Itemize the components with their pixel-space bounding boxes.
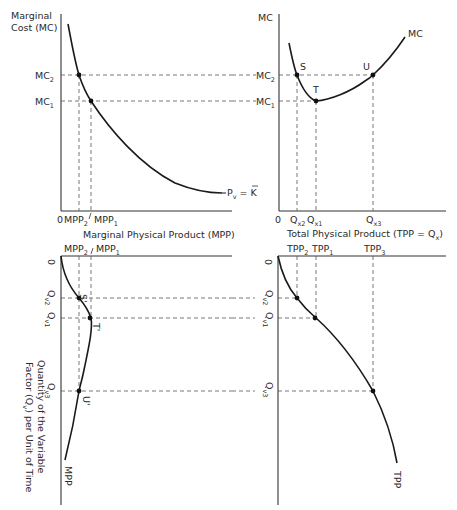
svg-text:Qv1: Qv1 <box>261 312 275 327</box>
bl-label-t: T' <box>91 322 102 331</box>
tr-tick-qx2: Qx2 <box>290 214 305 228</box>
br-tick-qv1: Qv1 <box>261 312 275 327</box>
tr-label-s: S <box>300 61 306 72</box>
br-tick-qv3: Qv3 <box>261 382 275 397</box>
bl-point-u <box>77 389 82 394</box>
svg-text:Qv1: Qv1 <box>43 312 57 327</box>
bl-tick-mpp2: MPP2 <box>64 243 88 257</box>
tr-x-axis-label: Total Physical Product (TPP = Qx) <box>286 228 443 242</box>
svg-text:0: 0 <box>263 259 274 265</box>
br-tick-tpp3: TPP3 <box>363 243 385 257</box>
tl-point-mc1 <box>89 99 94 104</box>
production-cost-diagram: Marginal Cost (MC) MC2 MC1 Pv = K 0 MPP2… <box>0 0 457 510</box>
panel-bottom-left: MPP2 MPP1 0 Qv2 Qv1 Qv3 S' T' U' MPP Qua… <box>21 243 232 505</box>
svg-text:MPP: MPP <box>63 466 74 486</box>
tr-point-u <box>371 73 376 78</box>
tr-mc-curve <box>289 37 405 101</box>
bl-tick-mpp1: MPP1 <box>96 243 120 257</box>
panel-top-left: Marginal Cost (MC) MC2 MC1 Pv = K 0 MPP2… <box>11 10 258 240</box>
svg-text:TPP: TPP <box>392 470 403 489</box>
bl-y-axis-label-2: Factor (Qv) per Unit of Time <box>21 362 35 493</box>
bl-label-s: S' <box>78 294 89 303</box>
tr-tick-mc2: MC2 <box>256 70 275 84</box>
br-tpp-curve <box>278 256 397 463</box>
bl-point-t <box>88 316 93 321</box>
tl-point-mc2 <box>77 73 82 78</box>
tr-y-axis-label: MC <box>258 12 273 23</box>
tr-label-t: T <box>312 84 319 95</box>
svg-text:0: 0 <box>46 259 57 265</box>
svg-text:Quantity of the Variable: Quantity of the Variable <box>36 360 47 473</box>
br-tick-tpp2: TPP2 <box>286 243 308 257</box>
br-point-t <box>313 316 318 321</box>
svg-text:T': T' <box>91 322 102 331</box>
svg-text:Factor (Qv) per Unit of Time: Factor (Qv) per Unit of Time <box>21 362 35 493</box>
tl-tick-mc2: MC2 <box>35 70 54 84</box>
bl-tick-origin: 0 <box>46 259 57 265</box>
br-tick-origin: 0 <box>263 259 274 265</box>
svg-text:S': S' <box>78 294 89 303</box>
bl-mpp-curve <box>61 256 91 460</box>
tr-origin: 0 <box>275 214 281 225</box>
tl-y-axis-label-2: Cost (MC) <box>11 22 57 33</box>
br-point-s <box>295 296 300 301</box>
tl-tick-mpp1: MPP1 <box>94 214 118 228</box>
br-tick-tpp1: TPP1 <box>311 243 333 257</box>
tr-point-s <box>295 73 300 78</box>
bl-label-u: U' <box>81 396 92 406</box>
bl-tick-qv1: Qv1 <box>43 312 57 327</box>
bl-mpp1-arrow <box>91 248 93 254</box>
tr-tick-mc1: MC1 <box>256 96 275 110</box>
bl-curve-label: MPP <box>63 466 74 486</box>
tl-origin: 0 <box>57 214 63 225</box>
panel-top-right: MC MC2 MC1 MC S T U 0 Qx2 Qx1 Qx3 Total … <box>232 12 446 242</box>
tr-curve-label: MC <box>408 28 423 39</box>
bl-y-axis-label-1: Quantity of the Variable <box>36 360 47 473</box>
svg-text:U': U' <box>81 396 92 406</box>
tl-tick-mc1: MC1 <box>35 96 54 110</box>
tl-y-axis-label-1: Marginal <box>11 10 52 21</box>
tl-x-axis-label: Marginal Physical Product (MPP) <box>83 229 235 240</box>
tr-tick-qx1: Qx1 <box>307 214 322 228</box>
svg-text:Qv3: Qv3 <box>261 382 275 397</box>
tl-curve-label: Pv = K <box>227 187 258 201</box>
tl-mpp1-arrow <box>89 213 91 219</box>
tr-label-u: U <box>363 61 370 72</box>
svg-text:Qv2: Qv2 <box>43 290 57 305</box>
br-curve-label: TPP <box>392 470 403 489</box>
tr-tick-qx3: Qx3 <box>366 214 381 228</box>
br-tick-qv2: Qv2 <box>261 290 275 305</box>
br-point-u <box>371 389 376 394</box>
tr-point-t <box>314 99 319 104</box>
svg-text:Qv2: Qv2 <box>261 290 275 305</box>
panel-bottom-right: TPP2 TPP1 TPP3 0 Qv2 Qv1 Qv3 TPP <box>232 243 446 505</box>
tl-tick-mpp2: MPP2 <box>64 214 88 228</box>
bl-tick-qv2: Qv2 <box>43 290 57 305</box>
